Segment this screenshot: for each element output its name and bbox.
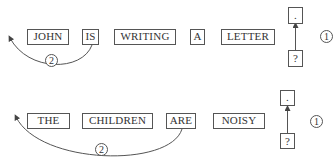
word-box-john: JOHN (27, 29, 69, 45)
step-circle-1-row1: 1 (320, 30, 333, 43)
step-circle-1-row2: 1 (310, 115, 323, 128)
question-box-row2: ? (280, 133, 295, 149)
word-box-are: ARE (166, 113, 196, 129)
period-box-row1: . (288, 7, 303, 24)
period-box-row2: . (280, 90, 295, 106)
word-box-a: A (190, 29, 205, 45)
question-box-row1: ? (288, 50, 303, 67)
word-box-letter: LETTER (221, 29, 275, 45)
word-box-children: CHILDREN (82, 113, 153, 129)
step-circle-2-row1: 2 (45, 54, 58, 67)
word-box-is: IS (82, 29, 99, 45)
word-box-noisy: NOISY (213, 113, 265, 129)
step-circle-2-row2: 2 (95, 143, 108, 156)
word-box-writing: WRITING (114, 29, 176, 45)
word-box-the: THE (27, 113, 70, 129)
